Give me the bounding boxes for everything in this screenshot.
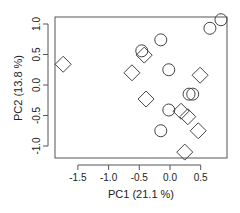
diamond-point (138, 91, 154, 107)
circle-point (163, 64, 175, 76)
y-tick-label: -1.0 (31, 137, 42, 155)
y-tick-label: -0.5 (31, 106, 42, 124)
diamond-point (55, 56, 71, 72)
data-points (55, 14, 227, 160)
x-tick-label: 0.5 (194, 172, 208, 183)
circle-point (215, 14, 227, 26)
x-tick-label: -1.0 (100, 172, 118, 183)
x-tick-label: 0.0 (163, 172, 177, 183)
pca-scatter-plot: -1.5-1.0-0.50.00.5 -1.0-0.50.00.51.0 PC1… (0, 0, 240, 213)
diamond-point (173, 103, 189, 119)
y-tick-label: 0.5 (31, 47, 42, 61)
circle-point (155, 34, 167, 46)
diamond-point (180, 109, 196, 125)
y-axis-label: PC2 (13.8 %) (12, 55, 24, 121)
y-tick-label: 0.0 (31, 78, 42, 92)
circle-point (163, 104, 175, 116)
x-axis: -1.5-1.0-0.50.00.5 (69, 165, 208, 183)
y-tick-label: 1.0 (31, 17, 42, 31)
circle-point (204, 22, 216, 34)
circle-point (155, 125, 167, 137)
diamond-point (124, 65, 140, 81)
y-axis: -1.0-0.50.00.51.0 (31, 17, 48, 155)
x-tick-label: -0.5 (131, 172, 149, 183)
circle-point (136, 45, 148, 57)
diamond-point (190, 123, 206, 139)
x-axis-label: PC1 (21.1 %) (108, 188, 174, 200)
x-tick-label: -1.5 (69, 172, 87, 183)
plot-frame (55, 17, 227, 158)
diamond-point (136, 47, 152, 63)
diamond-point (192, 67, 208, 83)
